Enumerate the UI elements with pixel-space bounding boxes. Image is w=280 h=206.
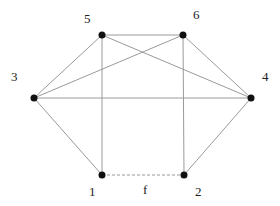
edge-6-4 <box>183 35 251 98</box>
node-1 <box>99 172 106 179</box>
edge-label-f: f <box>143 182 148 197</box>
node-label-6: 6 <box>193 7 200 22</box>
edge-6-3 <box>34 35 183 98</box>
edges-group <box>34 35 251 175</box>
node-label-2: 2 <box>195 184 202 199</box>
node-4 <box>248 95 255 102</box>
node-2 <box>181 172 188 179</box>
nodes-group <box>31 32 255 179</box>
node-label-3: 3 <box>11 69 18 84</box>
graph-diagram: 123456 f <box>0 0 280 206</box>
edge-3-1 <box>34 98 102 175</box>
node-3 <box>31 95 38 102</box>
edge-5-3 <box>34 35 102 98</box>
node-5 <box>99 32 106 39</box>
edge-6-2 <box>183 35 184 175</box>
node-label-4: 4 <box>262 69 269 84</box>
node-label-5: 5 <box>84 11 91 26</box>
edge-4-2 <box>184 98 251 175</box>
node-6 <box>180 32 187 39</box>
node-label-1: 1 <box>89 184 96 199</box>
edge-5-4 <box>102 35 251 98</box>
graph-canvas: 123456 f <box>0 0 280 206</box>
labels-group: 123456 <box>11 7 269 199</box>
